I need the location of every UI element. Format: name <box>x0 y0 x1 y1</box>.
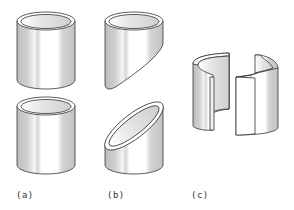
cylinder-upper <box>17 12 75 89</box>
caption-c: (c) <box>191 190 209 200</box>
panel-c <box>193 53 278 135</box>
caption-b: (b) <box>107 190 125 200</box>
half-tube-right <box>236 55 278 135</box>
panel-b <box>98 12 170 174</box>
diagram-canvas <box>0 0 294 210</box>
oblique-lower <box>98 94 170 174</box>
caption-a: (a) <box>16 190 34 200</box>
cylinder-lower <box>17 97 75 174</box>
panel-a <box>17 12 75 174</box>
half-tube-left <box>193 53 229 130</box>
oblique-upper <box>105 12 163 89</box>
